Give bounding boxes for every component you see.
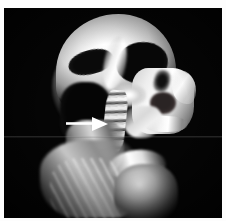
scan-seam-artifact-secondary (4, 137, 222, 138)
sternocleidomastoid-striations (50, 158, 120, 218)
frontal-bone-ridge (99, 35, 130, 92)
temporal-cutaway-region (66, 44, 117, 80)
maxillary-sinus-region (150, 92, 176, 114)
pointer-arrow-icon (66, 116, 108, 132)
alveolar-ridge-region (144, 116, 188, 132)
ct-scan-image (4, 8, 222, 218)
nasal-cavity-region (152, 68, 173, 93)
image-vignette (4, 8, 222, 218)
trapezius-region (40, 140, 136, 218)
orbital-cavity-region (113, 39, 170, 88)
midface-region (132, 68, 194, 134)
cranium-region (56, 14, 176, 122)
scan-seam-artifact (4, 136, 222, 137)
shoulder-region (114, 164, 178, 218)
clavicle-region (107, 147, 168, 181)
nasal-profile-region (172, 70, 196, 104)
figure-container (0, 0, 226, 221)
anterior-neck-void (60, 82, 114, 144)
skull-base-region (112, 84, 146, 106)
mandible-region (124, 106, 162, 138)
